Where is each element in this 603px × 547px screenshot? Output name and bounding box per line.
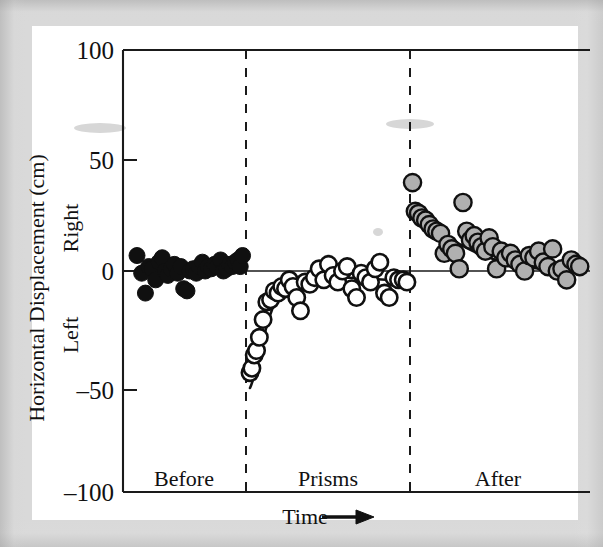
data-point [571,258,588,275]
ytick-label-neg100: –100 [63,479,114,506]
ytick-label-100: 100 [77,37,115,64]
ytick-label-50: 50 [89,147,114,174]
phase-label-after: After [475,466,522,491]
data-point [179,283,195,299]
ytick-label-0: 0 [102,258,115,285]
data-point [255,311,271,327]
data-point [544,240,561,257]
ytick-label-neg50: –50 [76,377,115,404]
y-axis-title: Horizontal Displacement (cm) [24,154,49,422]
series-before-points [129,248,251,302]
scan-artifacts [74,119,434,236]
data-point [454,194,471,211]
phase-label-before: Before [154,466,214,491]
phase-label-prisms: Prisms [298,466,358,491]
data-point [348,289,364,305]
arrow-right-icon [322,510,374,524]
y-direction-right-label: Right [58,204,83,253]
data-point [235,248,251,264]
data-point [558,271,575,288]
data-point [372,254,388,270]
data-point [292,303,308,319]
data-point [137,285,153,301]
figure-page: 100 50 0 –50 –100 Horizontal Displacemen… [0,0,603,547]
series-prisms-points [242,254,415,381]
prism-adaptation-chart: 100 50 0 –50 –100 Horizontal Displacemen… [0,0,603,547]
data-point [404,174,421,191]
data-point [451,260,468,277]
x-axis-title: Time [282,504,328,529]
data-point [381,289,397,305]
data-point [251,329,267,345]
y-direction-left-label: Left [58,317,83,354]
data-point [399,274,415,290]
